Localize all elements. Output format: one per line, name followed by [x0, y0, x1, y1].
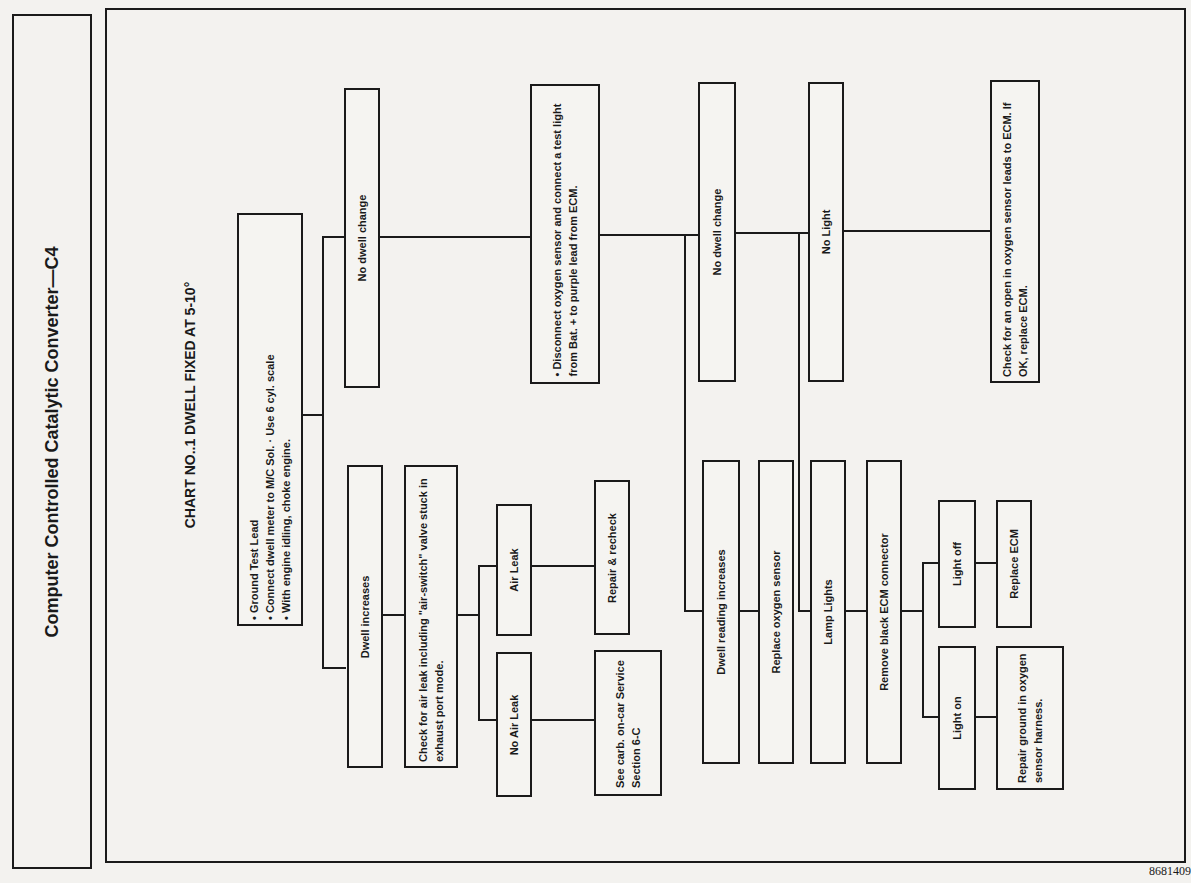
start-step-1: Ground Test Lead — [246, 220, 262, 620]
node-repair-ground: Repair ground in oxygen sensor harness. — [996, 646, 1064, 790]
node-lamp-lights: Lamp Lights — [810, 460, 846, 764]
node-start: Ground Test Lead Connect dwell meter to … — [237, 213, 303, 626]
node-disconnect-o2: • Disconnect oxygen sensor and connect a… — [530, 84, 600, 384]
node-dwell-reading-increases: Dwell reading increases — [702, 460, 740, 764]
node-check-open: Check for an open in oxygen sensor leads… — [990, 80, 1040, 383]
side-title: Computer Controlled Catalytic Converter—… — [42, 246, 63, 637]
node-air-leak: Air Leak — [496, 504, 532, 636]
chart-title-area: CHART NO..1 DWELL FIXED AT 5-10° — [175, 160, 205, 650]
node-light-on: Light on — [938, 646, 976, 790]
start-step-3: With engine idling, choke engine. — [278, 220, 294, 620]
node-check-air-leak: Check for air leak including "air-switch… — [404, 465, 458, 768]
node-light-off: Light off — [938, 500, 976, 628]
node-repair-recheck: Repair & recheck — [594, 480, 630, 635]
node-no-dwell-change-2: No dwell change — [698, 82, 736, 382]
node-remove-connector: Remove black ECM connector — [866, 460, 902, 764]
side-title-frame: Computer Controlled Catalytic Converter—… — [12, 14, 92, 869]
node-see-carb: See carb. on-car Service Section 6-C — [594, 650, 662, 796]
node-no-dwell-change-1: No dwell change — [344, 88, 380, 388]
chart-title: CHART NO..1 DWELL FIXED AT 5-10° — [182, 282, 198, 528]
node-replace-o2: Replace oxygen sensor — [758, 460, 794, 764]
figure-number: 8681409 — [1149, 864, 1191, 879]
node-replace-ecm: Replace ECM — [996, 500, 1032, 628]
node-dwell-increases: Dwell increases — [347, 465, 383, 768]
node-no-light: No Light — [808, 82, 844, 382]
node-no-air-leak: No Air Leak — [496, 652, 532, 797]
start-step-2: Connect dwell meter to M/C Sol. · Use 6 … — [262, 220, 278, 620]
